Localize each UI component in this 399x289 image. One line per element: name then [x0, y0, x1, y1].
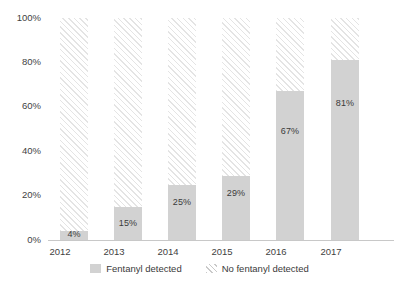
bar-segment-fentanyl — [331, 60, 359, 240]
legend-item-no-fentanyl-detected[interactable]: No fentanyl detected — [206, 263, 309, 274]
bar-value-label: 15% — [114, 218, 142, 228]
bar-segment-no-fentanyl — [276, 18, 304, 91]
bar-group-2013[interactable]: 15% — [114, 18, 142, 240]
stacked-bar-chart: 100% 80% 60% 40% 20% 0% 4% 15% 25% 29% — [0, 0, 399, 289]
legend-item-label: Fentanyl detected — [106, 263, 182, 274]
x-tick-label: 2014 — [144, 246, 192, 257]
legend-item-fentanyl-detected[interactable]: Fentanyl detected — [90, 263, 182, 274]
bar-segment-fentanyl — [168, 185, 196, 241]
bar-value-label: 67% — [276, 126, 304, 136]
bar-segment-fentanyl — [222, 176, 250, 240]
bar-segment-no-fentanyl — [331, 18, 359, 60]
bar-group-2017[interactable]: 81% — [331, 18, 359, 240]
chart-legend: Fentanyl detected No fentanyl detected — [0, 263, 399, 274]
x-tick-label: 2015 — [198, 246, 246, 257]
x-tick-label: 2016 — [252, 246, 300, 257]
bar-value-label: 81% — [331, 98, 359, 108]
hatched-swatch-icon — [206, 264, 217, 273]
bar-group-2015[interactable]: 29% — [222, 18, 250, 240]
y-tick-label: 60% — [0, 101, 41, 111]
y-tick-label: 40% — [0, 146, 41, 156]
legend-item-label: No fentanyl detected — [222, 263, 309, 274]
y-tick-label: 80% — [0, 57, 41, 67]
y-tick-label: 20% — [0, 190, 41, 200]
x-tick-label: 2017 — [307, 246, 355, 257]
y-tick-label: 100% — [0, 13, 41, 23]
x-tick-label: 2013 — [90, 246, 138, 257]
bar-value-label: 4% — [60, 229, 88, 239]
bar-value-label: 29% — [222, 188, 250, 198]
bar-segment-no-fentanyl — [114, 18, 142, 207]
bar-group-2016[interactable]: 67% — [276, 18, 304, 240]
bar-segment-no-fentanyl — [222, 18, 250, 176]
bar-group-2012[interactable]: 4% — [60, 18, 88, 240]
y-tick-label: 0% — [0, 235, 41, 245]
x-tick-label: 2012 — [36, 246, 84, 257]
bar-value-label: 25% — [168, 197, 196, 207]
bar-segment-fentanyl — [276, 91, 304, 240]
plot-area: 4% 15% 25% 29% 67% 81% — [48, 18, 392, 240]
bar-segment-no-fentanyl — [168, 18, 196, 185]
bar-group-2014[interactable]: 25% — [168, 18, 196, 240]
x-axis-line — [48, 240, 394, 241]
bar-segment-no-fentanyl — [60, 18, 88, 231]
solid-gray-swatch-icon — [90, 264, 101, 273]
